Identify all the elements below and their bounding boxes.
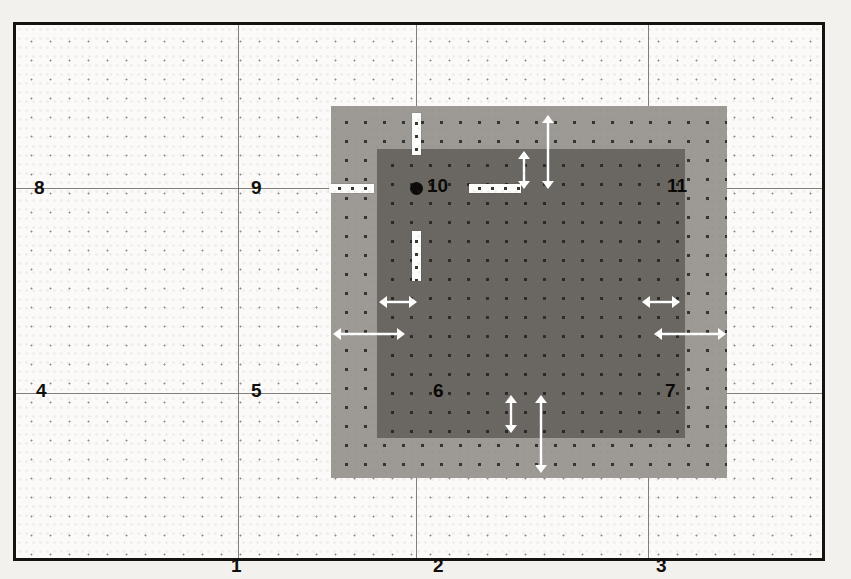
crosshair-arm-down — [412, 231, 421, 281]
crosshair-arm-right — [469, 184, 521, 193]
cell-label-7: 7 — [665, 381, 676, 400]
cell-label-9: 9 — [251, 178, 262, 197]
arrow-margin-top-inner-right — [518, 151, 530, 189]
crosshair-bar-dots — [412, 231, 421, 281]
cell-label-3: 3 — [656, 556, 667, 575]
inner-dark-rectangle — [377, 149, 685, 438]
crosshair-arm-up — [412, 113, 421, 155]
cell-label-5: 5 — [251, 381, 262, 400]
cell-label-8: 8 — [34, 178, 45, 197]
figure-canvas: 1234567891011 — [0, 0, 851, 579]
crosshair-bar-dots — [469, 184, 521, 193]
arrow-margin-bottom-outer — [535, 395, 547, 473]
inner-rectangle-dot-texture — [377, 149, 685, 438]
arrow-margin-top-outer-right — [542, 115, 554, 189]
cell-label-10: 10 — [427, 176, 448, 195]
cell-label-1: 1 — [231, 556, 242, 575]
figure-frame: 1234567891011 — [13, 22, 825, 561]
crosshair-bar-dots — [412, 113, 421, 155]
arrow-margin-right-outer — [654, 328, 726, 340]
crosshair-bar-dots — [329, 184, 374, 193]
cell-label-4: 4 — [36, 381, 47, 400]
grid-vline-0 — [238, 25, 239, 558]
arrow-margin-right-inner — [642, 296, 680, 308]
arrow-margin-bottom-inner — [505, 395, 517, 433]
cell-label-11: 11 — [667, 176, 687, 195]
cell-label-6: 6 — [433, 381, 444, 400]
crosshair-arm-left — [329, 184, 374, 193]
arrow-margin-left-outer — [333, 328, 405, 340]
cell-label-2: 2 — [433, 556, 444, 575]
crosshair-center-hub — [410, 182, 423, 195]
arrow-margin-left-inner — [379, 296, 417, 308]
